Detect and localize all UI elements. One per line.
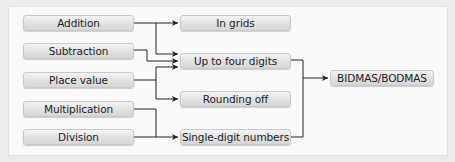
node-up-to-four-digits: Up to four digits <box>180 53 291 69</box>
node-single-digit-numbers: Single-digit numbers <box>180 129 291 145</box>
node-bidmas-bodmas: BIDMAS/BODMAS <box>330 70 434 86</box>
node-rounding-off: Rounding off <box>180 91 291 107</box>
node-in-grids: In grids <box>180 15 291 31</box>
node-multiplication: Multiplication <box>23 101 134 117</box>
node-subtraction: Subtraction <box>23 43 134 59</box>
node-addition: Addition <box>23 15 134 31</box>
node-place-value: Place value <box>23 72 134 88</box>
node-division: Division <box>23 129 134 145</box>
